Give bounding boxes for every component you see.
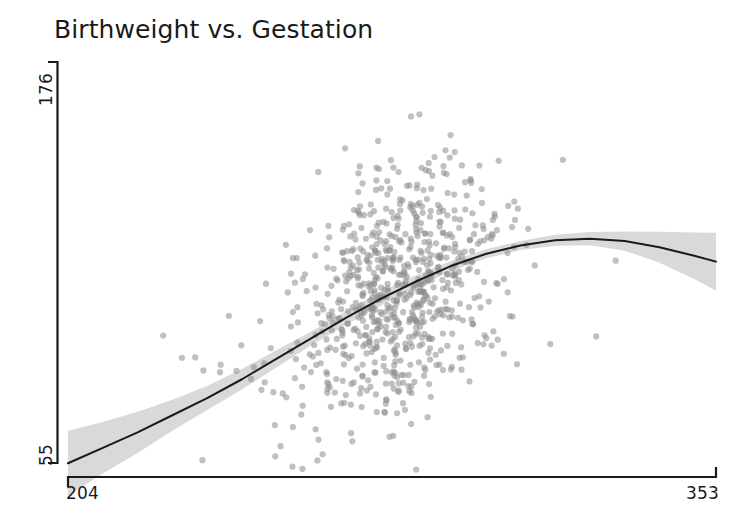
scatter-point xyxy=(320,451,326,457)
scatter-point xyxy=(350,263,356,269)
scatter-point xyxy=(405,261,411,267)
scatter-point xyxy=(328,404,334,410)
scatter-point xyxy=(390,164,396,170)
scatter-point xyxy=(413,257,419,263)
scatter-point xyxy=(368,201,374,207)
scatter-point xyxy=(398,272,404,278)
scatter-point xyxy=(412,331,418,337)
scatter-point xyxy=(436,307,442,313)
scatter-point xyxy=(448,366,454,372)
scatter-point xyxy=(383,368,389,374)
scatter-point xyxy=(495,337,501,343)
scatter-point xyxy=(466,378,472,384)
scatter-point xyxy=(341,257,347,263)
scatter-point xyxy=(490,217,496,223)
scatter-point xyxy=(469,210,475,216)
scatter-point xyxy=(350,246,356,252)
scatter-point xyxy=(374,326,380,332)
scatter-point xyxy=(263,281,269,287)
scatter-point xyxy=(428,186,434,192)
scatter-point xyxy=(447,155,453,161)
scatter-point xyxy=(375,138,381,144)
scatter-point xyxy=(367,342,373,348)
scatter-point xyxy=(441,170,447,176)
scatter-point xyxy=(364,257,370,263)
scatter-point xyxy=(374,339,380,345)
scatter-point xyxy=(509,224,515,230)
scatter-point xyxy=(340,344,346,350)
scatter-point xyxy=(310,353,316,359)
scatter-point xyxy=(313,301,319,307)
scatter-point xyxy=(425,268,431,274)
scatter-point xyxy=(314,457,320,463)
scatter-point xyxy=(391,373,397,379)
scatter-point xyxy=(258,387,264,393)
scatter-point xyxy=(377,309,383,315)
scatter-point xyxy=(428,208,434,214)
scatter-point xyxy=(421,239,427,245)
scatter-point xyxy=(374,409,380,415)
scatter-point xyxy=(362,332,368,338)
scatter-point xyxy=(363,236,369,242)
scatter-point xyxy=(408,239,414,245)
scatter-point xyxy=(460,354,466,360)
scatter-point xyxy=(427,356,433,362)
scatter-point xyxy=(444,343,450,349)
scatter-point xyxy=(419,334,425,340)
scatter-point xyxy=(393,352,399,358)
x-axis-line xyxy=(68,467,716,487)
scatter-point xyxy=(458,367,464,373)
scatter-point xyxy=(315,437,321,443)
scatter-point xyxy=(233,368,239,374)
scatter-point xyxy=(372,359,378,365)
scatter-point xyxy=(468,180,474,186)
scatter-point xyxy=(397,255,403,261)
scatter-point xyxy=(199,457,205,463)
scatter-point xyxy=(355,328,361,334)
scatter-point xyxy=(363,350,369,356)
scatter-point xyxy=(433,240,439,246)
scatter-point xyxy=(490,232,496,238)
scatter-point xyxy=(402,297,408,303)
scatter-point xyxy=(377,237,383,243)
scatter-point xyxy=(367,282,373,288)
scatter-point xyxy=(341,361,347,367)
scatter-point xyxy=(480,222,486,228)
scatter-point xyxy=(471,231,477,237)
scatter-point xyxy=(429,277,435,283)
scatter-point xyxy=(443,254,449,260)
scatter-point xyxy=(481,279,487,285)
scatter-point xyxy=(292,280,298,286)
scatter-point xyxy=(439,277,445,283)
scatter-point xyxy=(409,309,415,315)
scatter-point xyxy=(435,202,441,208)
scatter-point xyxy=(425,350,431,356)
scatter-point xyxy=(387,186,393,192)
scatter-point xyxy=(409,344,415,350)
scatter-point xyxy=(416,111,422,117)
scatter-point xyxy=(459,162,465,168)
scatter-point xyxy=(345,308,351,314)
scatter-point xyxy=(402,231,408,237)
scatter-point xyxy=(456,225,462,231)
scatter-point xyxy=(238,342,244,348)
scatter-point xyxy=(290,309,296,315)
scatter-point xyxy=(442,299,448,305)
scatter-point xyxy=(356,210,362,216)
scatter-point xyxy=(429,173,435,179)
scatter-point xyxy=(417,248,423,254)
scatter-point xyxy=(505,203,511,209)
scatter-point xyxy=(371,208,377,214)
scatter-points xyxy=(160,111,619,472)
scatter-point xyxy=(410,285,416,291)
scatter-point xyxy=(547,341,553,347)
scatter-point xyxy=(445,306,451,312)
scatter-point xyxy=(447,132,453,138)
scatter-point xyxy=(426,160,432,166)
scatter-point xyxy=(340,378,346,384)
scatter-point xyxy=(462,206,468,212)
scatter-point xyxy=(406,319,412,325)
scatter-point xyxy=(446,314,452,320)
scatter-point xyxy=(350,272,356,278)
scatter-point xyxy=(469,248,475,254)
